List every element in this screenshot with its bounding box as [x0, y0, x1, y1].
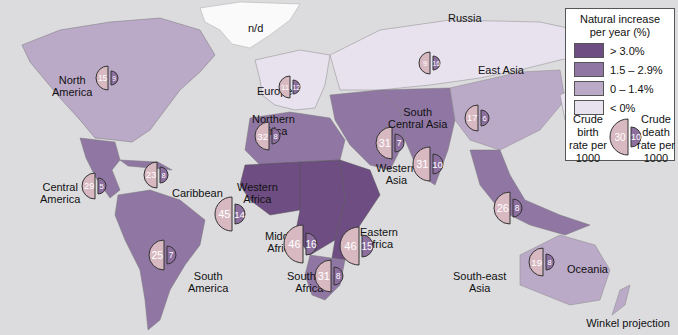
svg-text:8: 8	[336, 271, 341, 281]
svg-text:46: 46	[344, 240, 356, 252]
rate-glyph: 1112	[277, 74, 302, 100]
svg-text:15: 15	[361, 241, 373, 252]
svg-text:19: 19	[531, 257, 542, 268]
rate-glyph: 295	[80, 171, 108, 201]
svg-text:8: 8	[515, 203, 520, 213]
region-label: East Asia	[478, 64, 524, 76]
world-map: n/d NorthAmerica159CentralAmerica295Cari…	[0, 0, 678, 335]
rate-glyph: 318	[313, 258, 345, 294]
svg-text:8: 8	[547, 258, 551, 267]
region-label: SouthAmerica	[188, 270, 228, 294]
legend: Natural increase per year (%) > 3.0% 1.5…	[565, 8, 675, 161]
svg-text:45: 45	[218, 208, 230, 220]
svg-text:17: 17	[467, 113, 477, 123]
svg-text:29: 29	[84, 181, 94, 191]
rate-glyph: 268	[492, 190, 524, 226]
legend-item-1-5-2-9: 1.5 – 2.9%	[574, 62, 674, 77]
svg-text:32: 32	[257, 131, 268, 142]
region-label: CentralAmerica	[40, 181, 80, 205]
legend-item-gt3: > 3.0%	[574, 43, 674, 58]
svg-text:5: 5	[99, 182, 103, 191]
svg-text:15: 15	[98, 73, 108, 83]
no-data-label: n/d	[248, 22, 263, 34]
rate-glyph: 159	[94, 64, 120, 92]
svg-text:31: 31	[318, 270, 330, 282]
svg-text:11: 11	[281, 83, 289, 92]
svg-text:8: 8	[273, 132, 277, 141]
svg-text:7: 7	[397, 138, 402, 148]
svg-text:23: 23	[146, 170, 156, 180]
legend-item-0-1-4: 0 – 1.4%	[574, 81, 674, 96]
rate-glyph: 4514	[213, 195, 247, 233]
svg-text:7: 7	[169, 250, 174, 260]
rate-glyph: 317	[374, 125, 406, 161]
svg-text:6: 6	[482, 114, 486, 123]
projection-label: Winkel projection	[586, 317, 670, 329]
legend-swatch	[574, 43, 604, 58]
region-label: Oceania	[567, 263, 608, 275]
svg-text:9: 9	[112, 75, 116, 82]
legend-death-label: Crudedeathrate per1000	[636, 113, 676, 165]
svg-text:25: 25	[151, 249, 163, 261]
svg-text:16: 16	[432, 60, 440, 67]
legend-swatch	[574, 62, 604, 77]
svg-text:8: 8	[161, 171, 165, 180]
svg-text:26: 26	[497, 202, 509, 214]
svg-text:31: 31	[416, 158, 428, 170]
svg-text:14: 14	[234, 209, 245, 220]
legend-swatch	[574, 81, 604, 96]
rate-glyph: 257	[147, 238, 178, 272]
svg-text:46: 46	[288, 238, 300, 250]
svg-text:31: 31	[379, 137, 391, 149]
svg-text:16: 16	[305, 239, 317, 250]
legend-birth-label: Crudebirthrate per1000	[568, 113, 608, 165]
region-label: South-eastAsia	[453, 270, 506, 294]
rate-glyph: 916	[417, 50, 442, 76]
rate-glyph: 328	[253, 120, 282, 152]
region-label: Russia	[448, 12, 482, 24]
svg-text:12: 12	[292, 84, 300, 91]
region-label: SouthCentral Asia	[388, 106, 447, 130]
svg-text:10: 10	[432, 159, 443, 170]
rate-glyph: 176	[463, 103, 491, 133]
rate-glyph: 238	[142, 160, 170, 190]
rate-glyph: 198	[527, 246, 556, 278]
svg-text:9: 9	[423, 59, 427, 68]
region-label: NorthAmerica	[52, 74, 92, 98]
svg-text:30: 30	[614, 132, 626, 143]
rate-glyph: 3110	[411, 145, 445, 183]
legend-title: Natural increase per year (%)	[566, 13, 674, 39]
